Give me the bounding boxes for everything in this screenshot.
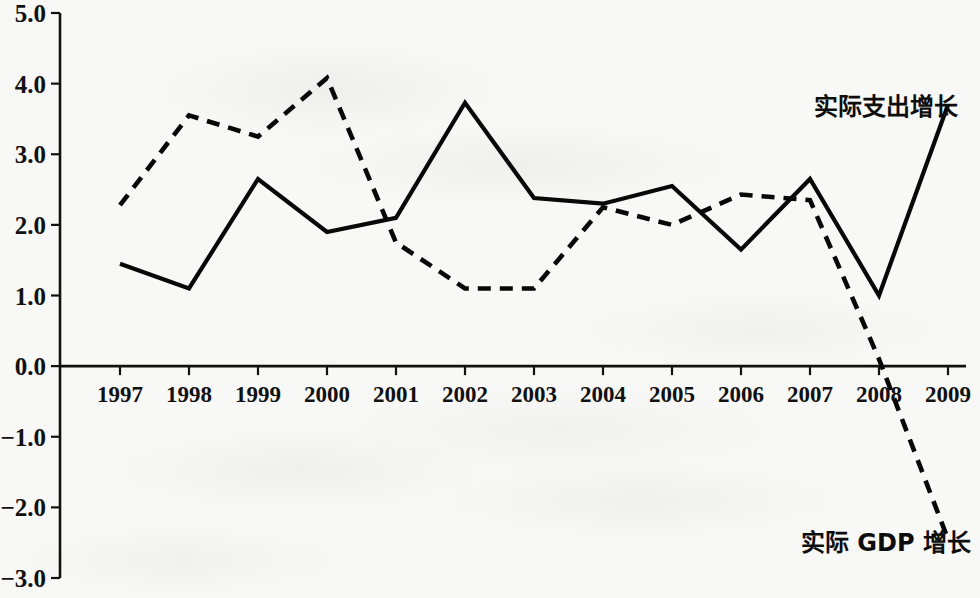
y-axis-tick-label: −3.0 [1,565,47,592]
x-axis-tick-label: 1998 [166,382,212,407]
x-axis-tick-label: 2002 [442,382,488,407]
y-axis-tick-label: −2.0 [1,494,47,521]
chart-canvas: 5.04.03.02.01.00.0−1.0−2.0−3.01997199819… [0,0,980,598]
y-axis-tick-label: 5.0 [15,0,46,27]
x-axis-tick-label: 2009 [925,382,971,407]
x-axis-tick-label: 2003 [511,382,557,407]
x-axis-tick-label: 2004 [580,382,627,407]
x-axis-tick-label: 2006 [718,382,764,407]
y-axis-tick-label: 2.0 [15,212,46,239]
x-axis-tick-label: 1999 [235,382,281,407]
y-axis-tick-label: 1.0 [15,283,46,310]
x-axis-tick-label: 1997 [97,382,143,407]
series-line-dashed [120,78,948,539]
line-chart: 5.04.03.02.01.00.0−1.0−2.0−3.01997199819… [0,0,980,598]
series-line-solid [120,103,948,296]
x-axis-tick-label: 2005 [649,382,695,407]
series-label-dashed: 实际 GDP 增长 [801,529,972,557]
x-axis-tick-label: 2000 [304,382,350,407]
series-label-solid: 实际支出增长 [814,93,959,121]
x-axis-tick-label: 2007 [787,382,833,407]
y-axis-tick-label: 3.0 [15,141,46,168]
x-axis-tick-label: 2001 [373,382,419,407]
y-axis-tick-label: −1.0 [1,424,47,451]
y-axis-tick-label: 0.0 [15,353,46,380]
y-axis-tick-label: 4.0 [15,71,46,98]
